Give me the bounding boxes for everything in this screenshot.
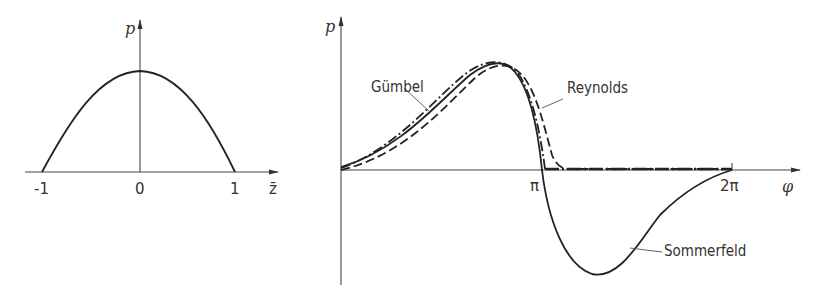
sommerfeld-label: Sommerfeld (664, 242, 746, 260)
right-plot: p π 2π φ Gümbel Reynolds Sommerfeld (325, 17, 800, 285)
guembel-label: Gümbel (371, 78, 424, 96)
left-tick-zero: 0 (135, 180, 145, 198)
left-tick-one: 1 (230, 180, 240, 198)
left-x-axis-label: z̄ (269, 180, 277, 198)
left-pressure-curve (42, 71, 235, 172)
left-tick-minus-one: -1 (34, 180, 49, 198)
right-y-axis-label: p (325, 17, 335, 36)
left-plot: p -1 0 1 z̄ (25, 19, 278, 198)
tick-pi: π (530, 177, 539, 195)
reynolds-leader (542, 99, 563, 108)
right-x-axis-label: φ (782, 177, 794, 196)
reynolds-label: Reynolds (567, 79, 628, 97)
bearing-pressure-figure: p -1 0 1 z̄ p π 2π φ Gümbel Reynolds Som… (0, 0, 826, 304)
tick-two-pi: 2π (720, 177, 739, 195)
left-y-axis-label: p (125, 19, 135, 38)
